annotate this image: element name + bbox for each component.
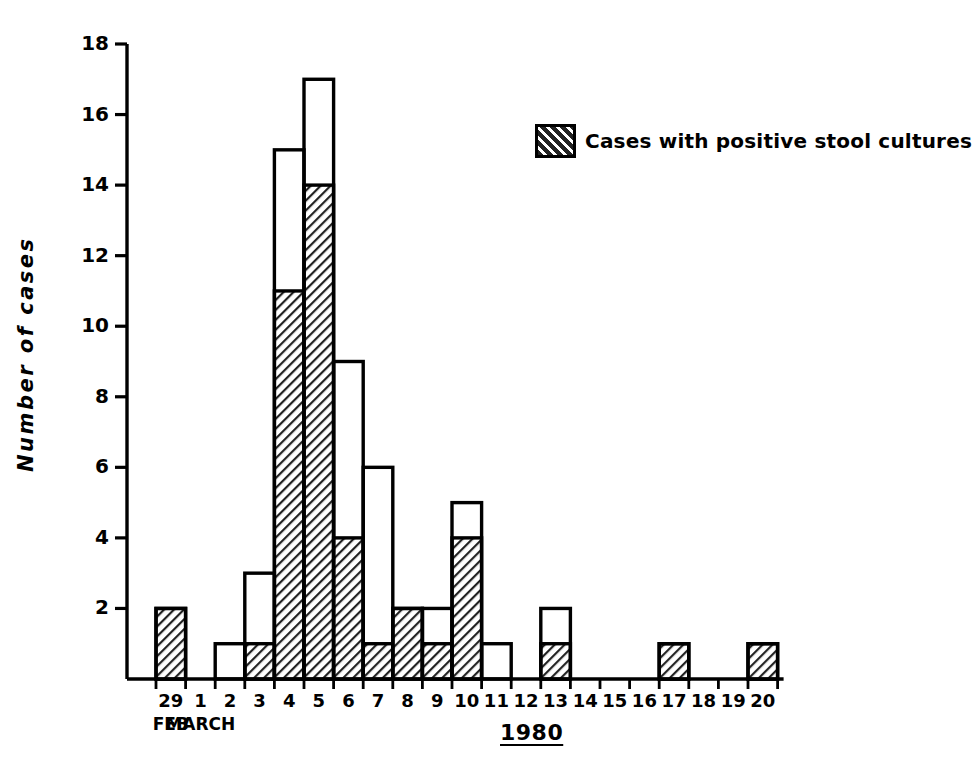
legend-swatch-hatched bbox=[535, 124, 576, 158]
bar-positive-culture bbox=[274, 291, 304, 679]
chart-legend: Cases with positive stool cultures bbox=[535, 124, 972, 158]
y-axis-tick-label: 6 bbox=[75, 456, 109, 476]
bar-positive-culture bbox=[659, 644, 689, 679]
bar-total-cases bbox=[482, 644, 512, 679]
bar-positive-culture bbox=[541, 644, 571, 679]
x-axis-title: 1980 bbox=[500, 720, 563, 745]
bar-positive-culture bbox=[156, 608, 186, 679]
x-axis-tick-label: 20 bbox=[738, 691, 788, 710]
y-axis-tick-label: 2 bbox=[75, 597, 109, 617]
bar-positive-culture bbox=[748, 644, 778, 679]
y-axis-tick-label: 12 bbox=[75, 245, 109, 265]
legend-label: Cases with positive stool cultures bbox=[585, 129, 972, 153]
y-axis-tick-label: 8 bbox=[75, 386, 109, 406]
bar-positive-culture bbox=[393, 608, 423, 679]
x-axis-month-label: MARCH bbox=[155, 715, 245, 733]
y-axis-tick-label: 18 bbox=[75, 33, 109, 53]
bar-positive-culture bbox=[245, 644, 275, 679]
y-axis-tick-label: 16 bbox=[75, 104, 109, 124]
bar-total-cases bbox=[215, 644, 245, 679]
y-axis-title: Number of cases bbox=[14, 272, 38, 472]
y-axis-tick-label: 4 bbox=[75, 527, 109, 547]
bar-positive-culture bbox=[452, 538, 482, 679]
bar-positive-culture bbox=[422, 644, 452, 679]
y-axis-tick-label: 10 bbox=[75, 315, 109, 335]
chart-bars bbox=[156, 79, 778, 679]
bar-positive-culture bbox=[363, 644, 393, 679]
bar-positive-culture bbox=[304, 185, 334, 679]
y-axis-tick-label: 14 bbox=[75, 174, 109, 194]
bar-positive-culture bbox=[334, 538, 364, 679]
